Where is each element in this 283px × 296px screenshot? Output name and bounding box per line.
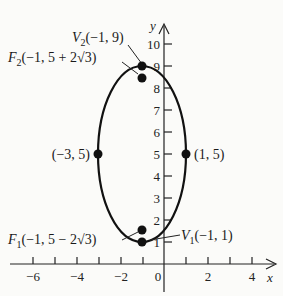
y-tick-label: 4 xyxy=(154,169,161,184)
y-axis xyxy=(159,24,172,292)
x-axis-label: x xyxy=(266,270,273,285)
x-tick-label: −6 xyxy=(26,269,40,284)
f2-label-coords: (−1, 5 + 2√3) xyxy=(22,50,97,66)
ellipse-curve xyxy=(98,66,186,242)
vertex-v1-point xyxy=(138,238,147,247)
ellipse-diagram: −6 −4 −2 0 2 4 x 1 2 3 4 5 6 7 8 9 10 y xyxy=(0,0,283,296)
right-covertex-label: (1, 5) xyxy=(194,147,225,163)
x-tick-label: 4 xyxy=(249,269,256,284)
x-tick-labels: −6 −4 −2 0 2 4 x xyxy=(26,269,273,285)
x-tick-label: −2 xyxy=(114,269,128,284)
leader-lines xyxy=(122,45,180,240)
x-tick-label: 0 xyxy=(155,269,162,284)
y-tick-label: 5 xyxy=(154,147,161,162)
y-tick-labels: 1 2 3 4 5 6 7 8 9 10 y xyxy=(147,18,161,250)
f2-label: F2(−1, 5 + 2√3) xyxy=(7,50,97,68)
vertex-v2-point xyxy=(138,62,147,71)
y-tick-label: 10 xyxy=(147,37,160,52)
y-tick-label: 7 xyxy=(154,103,161,118)
y-axis-label: y xyxy=(148,18,156,33)
v2-label-coords: (−1, 9) xyxy=(86,30,125,46)
v1-label-coords: (−1, 1) xyxy=(195,228,234,244)
x-tick-label: −4 xyxy=(70,269,84,284)
points xyxy=(94,62,191,247)
focus-f1-point xyxy=(138,226,147,235)
y-tick-label: 6 xyxy=(154,125,161,140)
x-axis xyxy=(10,257,276,269)
covertex-left-point xyxy=(94,150,103,159)
f1-label: F1(−1, 5 − 2√3) xyxy=(7,232,97,250)
f2-label-name: F xyxy=(7,50,17,65)
v2-label: V2(−1, 9) xyxy=(72,30,124,48)
y-tick-label: 3 xyxy=(154,191,161,206)
left-covertex-label: (−3, 5) xyxy=(52,147,91,163)
f1-label-coords: (−1, 5 − 2√3) xyxy=(22,232,97,248)
covertex-right-point xyxy=(182,150,191,159)
v1-label: V1(−1, 1) xyxy=(181,228,233,246)
y-tick-label: 2 xyxy=(154,213,161,228)
f1-label-name: F xyxy=(7,232,17,247)
focus-f2-point xyxy=(138,74,147,83)
x-tick-label: 2 xyxy=(205,269,212,284)
y-tick-label: 8 xyxy=(154,81,161,96)
